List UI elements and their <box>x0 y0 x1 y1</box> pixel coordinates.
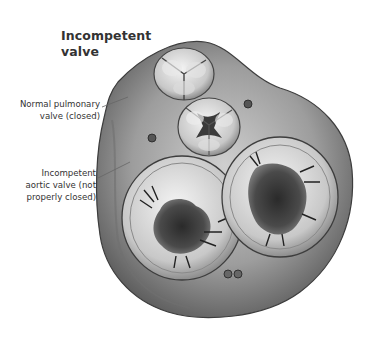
mitral-valve <box>222 137 338 257</box>
aortic-valve <box>178 98 240 156</box>
tricuspid-valve <box>122 156 242 280</box>
pulmonary-valve <box>154 48 214 100</box>
heart-valves-illustration <box>0 0 371 341</box>
